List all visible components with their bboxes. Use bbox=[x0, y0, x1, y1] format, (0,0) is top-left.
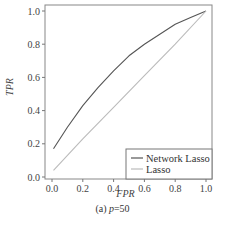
figure-caption: (a) p=50 bbox=[0, 203, 225, 214]
legend: Network LassoLasso bbox=[126, 149, 212, 179]
y-tick-label: 0.6 bbox=[28, 72, 41, 83]
x-tick-label: 0.6 bbox=[138, 183, 151, 194]
x-tick-label: 0.8 bbox=[169, 183, 182, 194]
series-line-network-lasso bbox=[54, 11, 207, 149]
y-tick-label: 0.0 bbox=[28, 172, 41, 183]
legend-label: Network Lasso bbox=[146, 153, 210, 164]
series-line-lasso bbox=[54, 11, 207, 170]
series-lines bbox=[54, 11, 207, 170]
legend-label: Lasso bbox=[146, 164, 171, 175]
y-tick-label: 1.0 bbox=[28, 6, 41, 17]
caption-suffix: =50 bbox=[114, 203, 130, 214]
roc-chart: 0.00.20.40.60.81.00.00.20.40.60.81.0FPRT… bbox=[0, 0, 225, 230]
y-tick-label: 0.8 bbox=[28, 39, 41, 50]
caption-prefix: (a) bbox=[95, 203, 109, 214]
x-axis-label: FPR bbox=[115, 188, 134, 199]
x-tick-label: 0.2 bbox=[77, 183, 90, 194]
y-tick-label: 0.2 bbox=[28, 138, 41, 149]
x-tick-label: 1.0 bbox=[200, 183, 213, 194]
x-tick-label: 0.0 bbox=[46, 183, 59, 194]
y-axis-label: TPR bbox=[4, 78, 15, 96]
y-tick-label: 0.4 bbox=[28, 105, 41, 116]
